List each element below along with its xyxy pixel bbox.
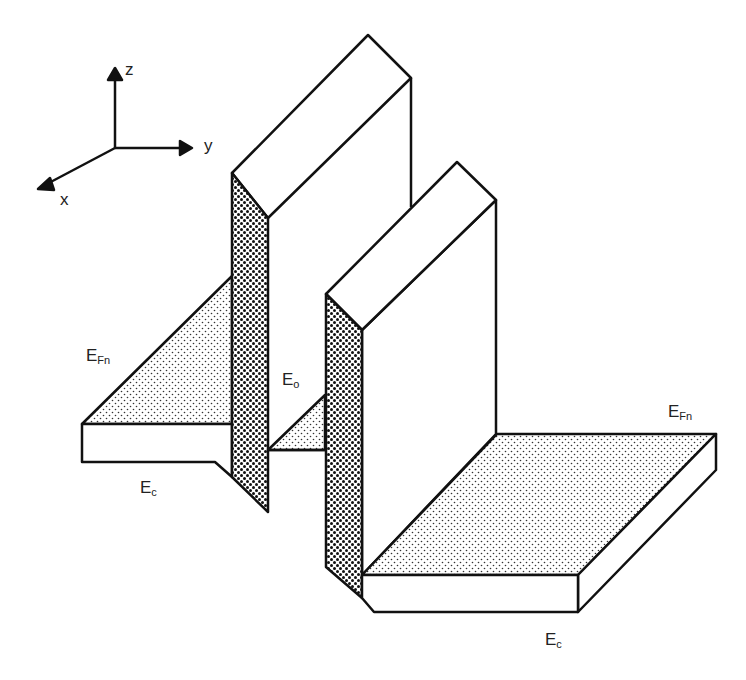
right-slab-front [362,575,578,612]
axis-label-z: z [125,60,134,80]
label-efn-left: EFn [86,346,110,366]
well-fermi-triangle [268,395,325,450]
label-ec-right: Ec [545,630,562,650]
axis-label-x: x [60,190,69,210]
barrier2-front [326,294,362,598]
axis-label-y: y [204,136,213,156]
axes [38,68,192,190]
band-diagram: z y x EFn Ec Eo EFn Ec [0,0,746,680]
barrier1-front [232,173,268,512]
label-efn-right: EFn [668,402,692,422]
left-slab-front [82,424,232,477]
label-eo: Eo [282,370,299,390]
band-diagram-graphic [0,0,746,680]
label-ec-left: Ec [140,478,157,498]
